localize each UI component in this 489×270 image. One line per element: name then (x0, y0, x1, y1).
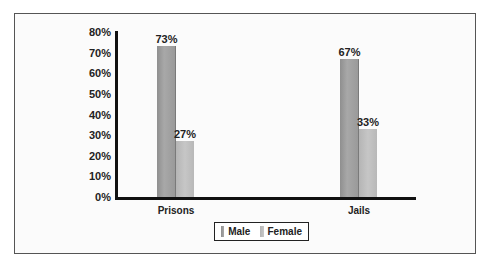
y-tick-label: 50% (70, 88, 111, 100)
y-tick-label: 70% (70, 47, 111, 59)
y-tick-label: 80% (70, 26, 111, 38)
value-label: 73% (147, 33, 187, 45)
y-tick-label: 30% (70, 129, 111, 141)
y-tick-label: 0% (70, 191, 111, 203)
y-tick-label: 10% (70, 170, 111, 182)
y-tick-label: 20% (70, 150, 111, 162)
x-axis (115, 197, 416, 200)
value-label: 67% (330, 46, 370, 58)
legend-swatch-female (260, 226, 263, 237)
y-tick-label: 60% (70, 67, 111, 79)
legend-label-male: Male (228, 226, 250, 237)
value-label: 33% (348, 116, 388, 128)
x-label-prisons: Prisons (146, 205, 206, 216)
y-axis (115, 31, 118, 200)
bar-female-prisons (176, 141, 194, 197)
x-label-jails: Jails (329, 205, 389, 216)
bar-male-prisons (157, 46, 176, 197)
legend-label-female: Female (268, 226, 302, 237)
legend: Male Female (214, 222, 309, 241)
legend-swatch-male (221, 226, 224, 237)
bar-female-jails (359, 129, 377, 197)
y-tick-label: 40% (70, 109, 111, 121)
value-label: 27% (165, 128, 205, 140)
